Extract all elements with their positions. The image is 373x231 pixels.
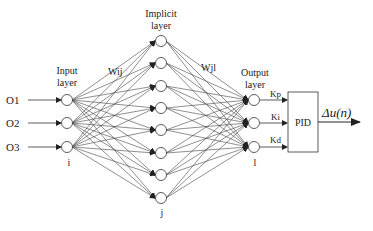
input-label-o1: O1 — [6, 94, 19, 106]
input-label-o3: O3 — [6, 141, 20, 153]
hidden-node — [156, 125, 167, 136]
input-node — [62, 95, 73, 106]
hidden-node — [156, 103, 167, 114]
hidden-node — [156, 193, 167, 204]
weight-label-wjl: Wjl — [201, 62, 216, 73]
hidden-layer-title: Implicit — [145, 8, 177, 19]
input-layer-title-2: layer — [57, 77, 78, 88]
output-layer-title-2: layer — [245, 79, 266, 90]
hidden-index: j — [160, 207, 164, 218]
input-layer-title: Input — [56, 65, 77, 76]
hidden-layer-title-2: layer — [151, 20, 172, 31]
hidden-node — [156, 148, 167, 159]
hidden-nodes — [156, 36, 167, 204]
output-node — [249, 142, 260, 153]
input-node — [62, 118, 73, 129]
hidden-node — [156, 36, 167, 47]
output-node — [249, 95, 260, 106]
output-layer-title: Output — [241, 67, 269, 78]
input-hidden-connections — [72, 41, 155, 198]
output-node — [249, 118, 260, 129]
hidden-node — [156, 81, 167, 92]
output-nodes — [249, 95, 260, 153]
output-label-kd: Kd — [270, 135, 281, 145]
hidden-node — [156, 170, 167, 181]
hidden-node — [156, 58, 167, 69]
input-nodes — [62, 95, 73, 153]
input-arrows — [28, 100, 61, 147]
output-label-kp: Kp — [270, 89, 281, 99]
weight-label-wij: Wij — [108, 66, 123, 77]
input-index: i — [68, 157, 71, 168]
neural-network-pid-diagram: O1 O2 O3 Implicit layer Input layer Outp… — [0, 0, 373, 231]
pid-label: PID — [295, 117, 311, 128]
controller-output-label: Δu(n) — [321, 105, 351, 120]
output-index: l — [254, 157, 257, 168]
output-label-ki: Ki — [271, 112, 280, 122]
input-label-o2: O2 — [6, 117, 19, 129]
input-node — [62, 142, 73, 153]
